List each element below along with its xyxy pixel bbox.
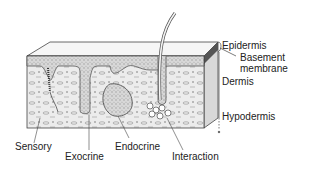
label-endocrine: Endocrine [115, 141, 160, 152]
skin-top-surface [27, 42, 218, 56]
label-exocrine: Exocrine [65, 151, 104, 162]
label-dermis: Dermis [222, 76, 254, 87]
skin-side-face [204, 42, 218, 128]
label-hypodermis: Hypodermis [222, 111, 275, 122]
label-interaction: Interaction [172, 151, 219, 162]
label-epidermis: Epidermis [222, 40, 266, 51]
label-basement-membrane-1: Basement [240, 52, 285, 63]
label-sensory: Sensory [15, 141, 52, 152]
label-basement-membrane-2: membrane [240, 63, 288, 74]
